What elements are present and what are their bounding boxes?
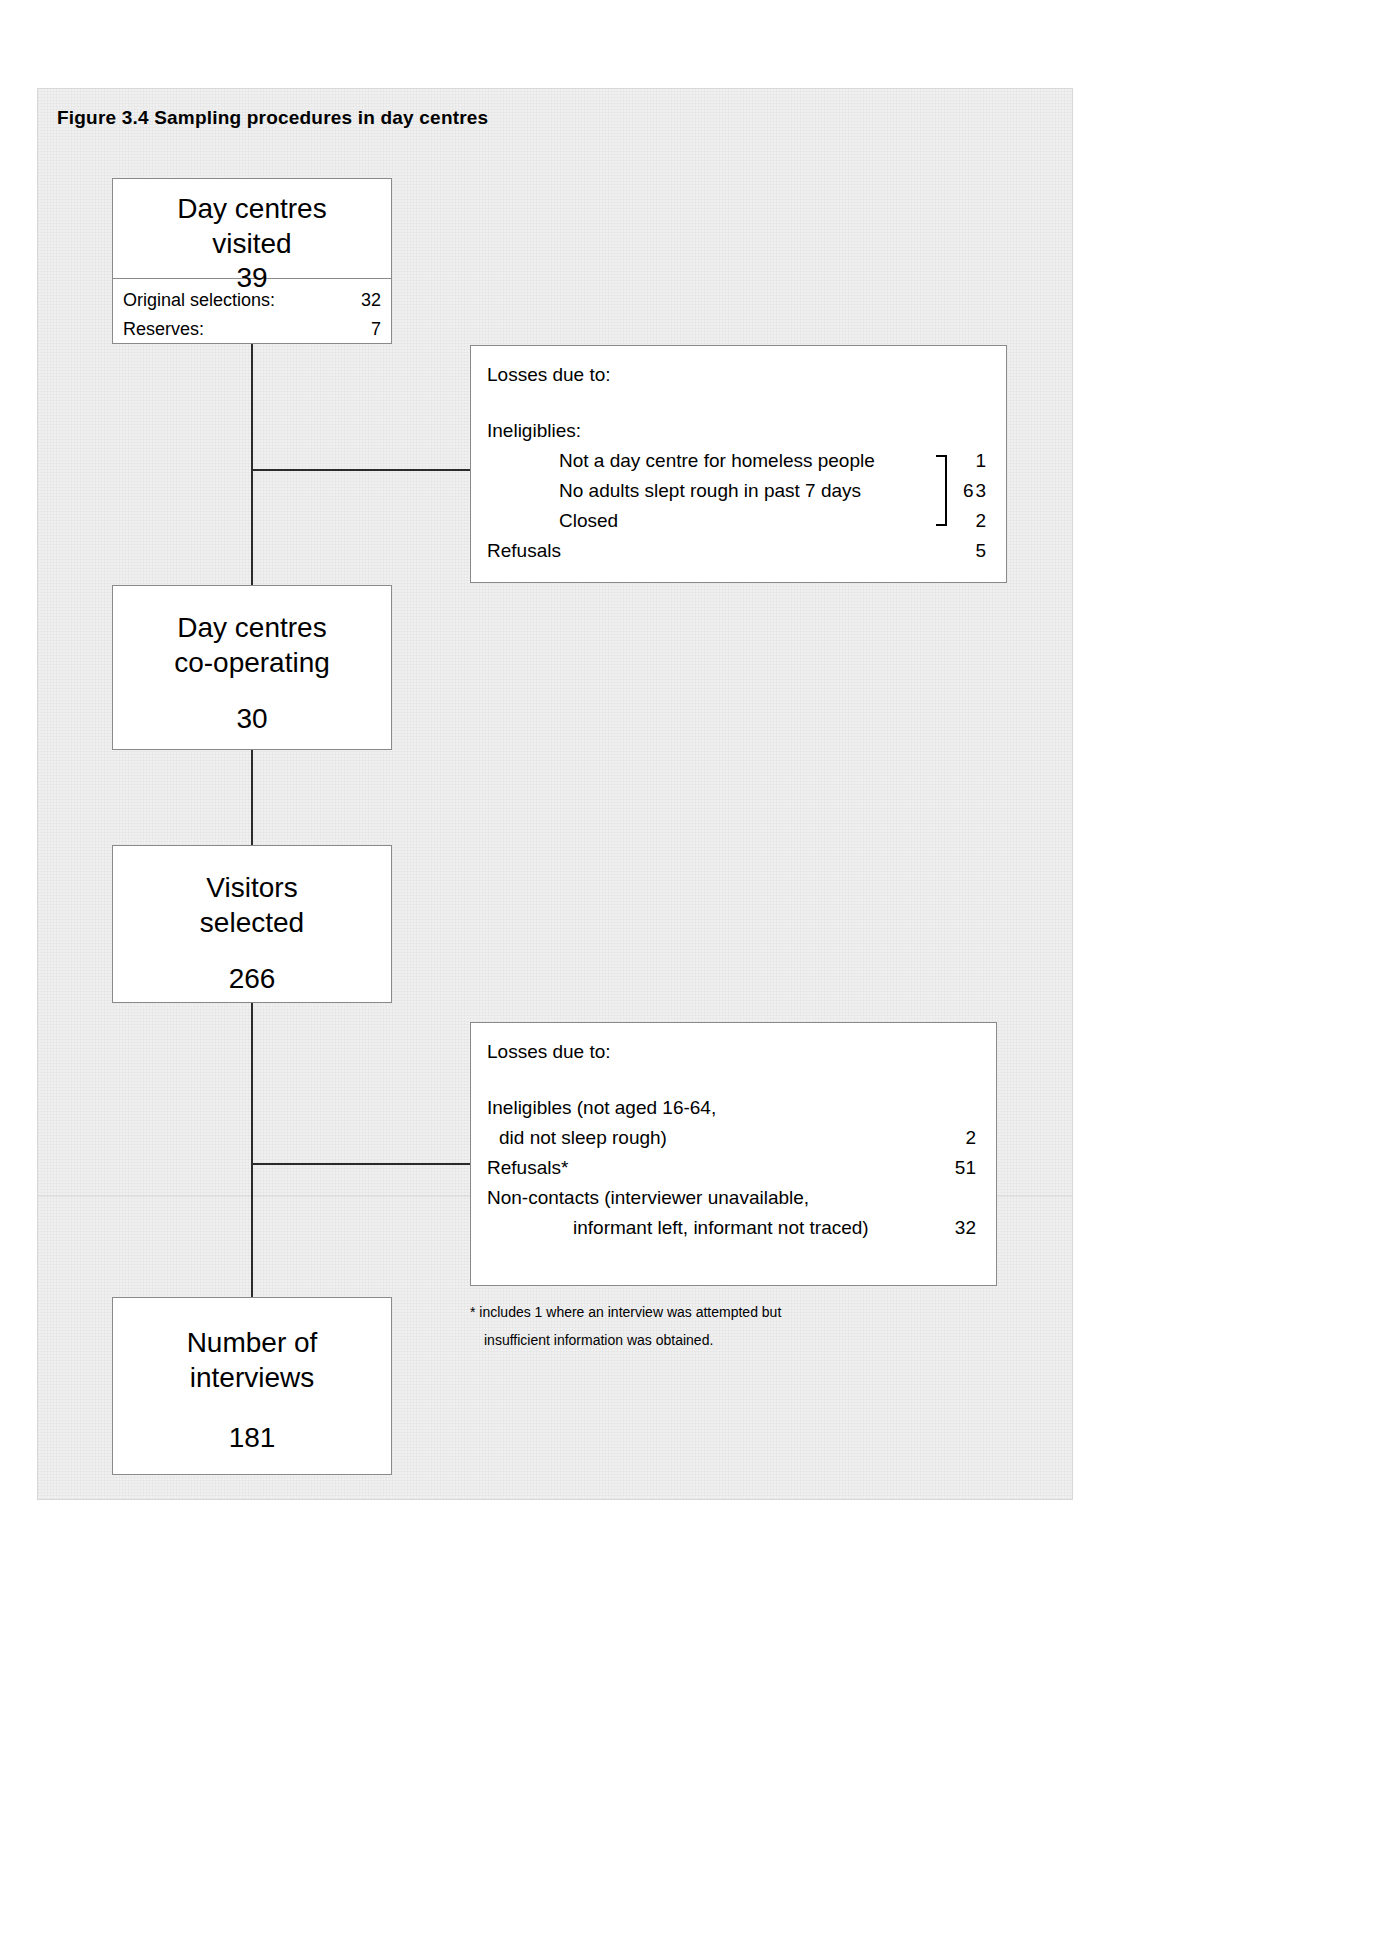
- connector-junction-to-cooperating: [251, 469, 253, 587]
- loss-line: Ineligibles (not aged 16-64,: [487, 1093, 976, 1123]
- figure-page: Figure 3.4 Sampling procedures in day ce…: [0, 0, 1394, 1940]
- group-total: 6: [963, 476, 974, 506]
- loss-label: Refusals: [487, 536, 952, 566]
- node-visitors-inner: Visitors selected 266: [113, 846, 391, 996]
- node-interviews-inner: Number of interviews 181: [113, 1298, 391, 1455]
- node-visitors-count: 266: [113, 962, 391, 996]
- detail-row: Reserves: 7: [123, 315, 381, 344]
- connector-visited-down: [251, 344, 253, 471]
- losses-category-label: Ineligiblies:: [487, 416, 986, 446]
- footnote: * includes 1 where an interview was atte…: [470, 1298, 990, 1354]
- footnote-line-2: insufficient information was obtained.: [470, 1326, 990, 1354]
- loss-line-refusals: Refusals 5: [487, 536, 986, 566]
- loss-label: Refusals*: [487, 1153, 942, 1183]
- node-day-centres-visited: Day centres visited 39 Original selectio…: [112, 178, 392, 344]
- detail-row: Original selections: 32: [123, 286, 381, 315]
- loss-value: 32: [942, 1213, 976, 1243]
- group-bracket: [936, 455, 947, 526]
- node-visitors-title: Visitors selected: [113, 870, 391, 940]
- loss-value: 1: [952, 446, 986, 476]
- loss-label: did not sleep rough): [487, 1123, 942, 1153]
- detail-value: 7: [359, 315, 381, 344]
- node-cooperating-inner: Day centres co-operating 30: [113, 586, 391, 736]
- detail-label: Reserves:: [123, 315, 359, 344]
- loss-line: Non-contacts (interviewer unavailable,: [487, 1183, 976, 1213]
- node-day-centres-cooperating: Day centres co-operating 30: [112, 585, 392, 750]
- ineligibles-group: Not a day centre for homeless people 1 N…: [487, 446, 986, 536]
- loss-value: 5: [952, 536, 986, 566]
- connector-visited-to-losses: [251, 469, 472, 471]
- loss-value: 2: [942, 1123, 976, 1153]
- loss-label: Ineligibles (not aged 16-64,: [487, 1093, 942, 1123]
- node-cooperating-title: Day centres co-operating: [113, 610, 391, 680]
- node-cooperating-count: 30: [113, 702, 391, 736]
- node-visitors-selected: Visitors selected 266: [112, 845, 392, 1003]
- loss-line: did not sleep rough) 2: [487, 1123, 976, 1153]
- loss-line: Not a day centre for homeless people 1: [487, 446, 986, 476]
- node-visited-title: Day centres visited: [113, 191, 391, 261]
- connector-visitors-down: [251, 1003, 253, 1165]
- losses-heading: Losses due to:: [487, 360, 986, 390]
- node-visited-lower: Original selections: 32 Reserves: 7: [113, 279, 391, 344]
- losses-box-day-centres: Losses due to: Ineligiblies: Not a day c…: [470, 345, 1007, 583]
- loss-line: informant left, informant not traced) 32: [487, 1213, 976, 1243]
- loss-label: informant left, informant not traced): [487, 1213, 942, 1243]
- loss-label: No adults slept rough in past 7 days: [487, 476, 952, 506]
- loss-label: Not a day centre for homeless people: [487, 446, 952, 476]
- node-interviews-title: Number of interviews: [113, 1325, 391, 1395]
- loss-label: Non-contacts (interviewer unavailable,: [487, 1183, 942, 1213]
- node-visited-upper: Day centres visited 39: [113, 179, 391, 279]
- node-interviews-count: 181: [113, 1421, 391, 1455]
- losses-box-visitors: Losses due to: Ineligibles (not aged 16-…: [470, 1022, 997, 1286]
- node-number-of-interviews: Number of interviews 181: [112, 1297, 392, 1475]
- connector-visitors-to-losses: [251, 1163, 472, 1165]
- detail-value: 32: [359, 286, 381, 315]
- loss-value: 51: [942, 1153, 976, 1183]
- detail-label: Original selections:: [123, 286, 359, 315]
- loss-value: 2: [952, 506, 986, 536]
- loss-label: Closed: [487, 506, 952, 536]
- footnote-line-1: * includes 1 where an interview was atte…: [470, 1298, 990, 1326]
- loss-line: No adults slept rough in past 7 days 3: [487, 476, 986, 506]
- figure-title: Figure 3.4 Sampling procedures in day ce…: [57, 107, 488, 129]
- connector-junction-to-interviews: [251, 1163, 253, 1299]
- losses-heading: Losses due to:: [487, 1037, 976, 1067]
- connector-cooperating-to-visitors: [251, 750, 253, 847]
- loss-line: Closed 2: [487, 506, 986, 536]
- loss-line: Refusals* 51: [487, 1153, 976, 1183]
